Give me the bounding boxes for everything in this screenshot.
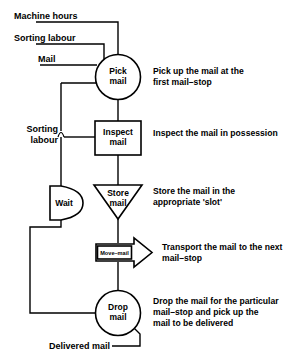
node-store-mail-label-line2: mail (109, 198, 126, 208)
node-move-mail-label: Move–mail (100, 250, 129, 256)
flowchart-svg: Pick mail Inspect mail Store mail Move–m… (0, 0, 296, 364)
description-pick-mail-line1: Pick up the mail at the (153, 66, 244, 76)
node-pick-mail-label-line2: mail (109, 76, 126, 86)
input-label-sorting-labour-mid-line1: Sorting (27, 124, 59, 134)
node-inspect-mail-label-line1: Inspect (103, 127, 133, 137)
description-move-mail-line1: Transport the mail to the next (162, 242, 282, 252)
input-label-machine-hours: Machine hours (14, 11, 78, 21)
output-label-delivered-mail: Delivered mail (49, 341, 110, 351)
node-inspect-mail-label-line2: mail (109, 137, 126, 147)
input-label-sorting-labour-mid-line2: labour (30, 135, 58, 145)
description-drop-mail-line1: Drop the mail for the particular (153, 296, 279, 306)
description-store-mail-line2: appropriate 'slot' (153, 197, 222, 207)
node-wait-label: Wait (55, 198, 73, 208)
diagram-canvas: Pick mail Inspect mail Store mail Move–m… (0, 0, 296, 364)
description-store-mail-line1: Store the mail in the (153, 186, 235, 196)
input-label-mail: Mail (38, 54, 56, 64)
connector-wait-feedback (30, 220, 95, 313)
description-inspect-mail-line1: Inspect the mail in possession (153, 128, 278, 138)
node-store-mail-label-line1: Store (107, 188, 129, 198)
description-drop-mail-line2: mail–stop and pick up the (153, 307, 259, 317)
input-label-sorting-labour-top: Sorting labour (14, 33, 76, 43)
description-drop-mail-line3: mail to be delivered (153, 318, 233, 328)
node-pick-mail-label-line1: Pick (109, 66, 127, 76)
description-move-mail-line2: mail–stop (162, 253, 202, 263)
connector-line-hop (58, 133, 64, 138)
node-drop-mail-label-line1: Drop (108, 302, 128, 312)
description-pick-mail-line2: first mail–stop (153, 77, 212, 87)
node-drop-mail-label-line2: mail (109, 312, 126, 322)
